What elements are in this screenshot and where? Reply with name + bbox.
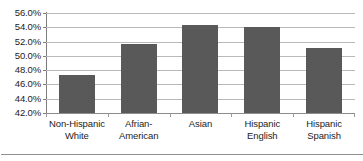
x-tick-label-hispanic-spanish: Hispanic Spanish xyxy=(293,118,355,141)
x-axis-tick xyxy=(170,113,171,117)
x-axis-ticks xyxy=(46,113,355,117)
y-tick-label: 42.0% xyxy=(15,108,41,118)
y-tick-label: 52.0% xyxy=(15,37,41,47)
x-axis-tick xyxy=(108,113,109,117)
bar-chart: 56.0% 54.0% 52.0% 50.0% 48.0% 46.0% 44.0… xyxy=(0,0,363,155)
bar-slot xyxy=(293,13,355,113)
chart-screenshot: 56.0% 54.0% 52.0% 50.0% 48.0% 46.0% 44.0… xyxy=(0,0,363,161)
x-tick-label-non-hispanic-white: Non-Hispanic White xyxy=(46,118,108,141)
bar-series xyxy=(46,13,355,113)
bar-slot xyxy=(170,13,232,113)
frame-left-edge xyxy=(0,0,1,155)
x-tick-label-afrian-american: Afrian- American xyxy=(108,118,170,141)
bar-afrian-american[interactable] xyxy=(121,44,157,113)
x-tick-label-hispanic-english: Hispanic English xyxy=(231,118,293,141)
x-axis-labels: Non-Hispanic White Afrian- American Asia… xyxy=(46,118,355,141)
bar-non-hispanic-white[interactable] xyxy=(59,75,95,113)
y-tick-label: 46.0% xyxy=(15,79,41,89)
bar-slot xyxy=(231,13,293,113)
x-axis-tick xyxy=(46,113,47,117)
bar-hispanic-english[interactable] xyxy=(244,27,280,113)
bar-hispanic-spanish[interactable] xyxy=(306,48,342,113)
y-tick-label: 44.0% xyxy=(15,94,41,104)
x-axis-tick xyxy=(354,113,355,117)
y-tick-label: 50.0% xyxy=(15,51,41,61)
x-axis-tick xyxy=(231,113,232,117)
x-axis-tick xyxy=(293,113,294,117)
y-tick-label: 48.0% xyxy=(15,65,41,75)
y-tick-label: 54.0% xyxy=(15,22,41,32)
bar-asian[interactable] xyxy=(182,25,218,113)
bar-slot xyxy=(108,13,170,113)
x-tick-label-asian: Asian xyxy=(170,118,232,141)
bar-slot xyxy=(46,13,108,113)
frame-bottom-divider xyxy=(0,154,363,155)
y-axis: 56.0% 54.0% 52.0% 50.0% 48.0% 46.0% 44.0… xyxy=(0,13,44,113)
y-tick-label: 56.0% xyxy=(15,8,41,18)
